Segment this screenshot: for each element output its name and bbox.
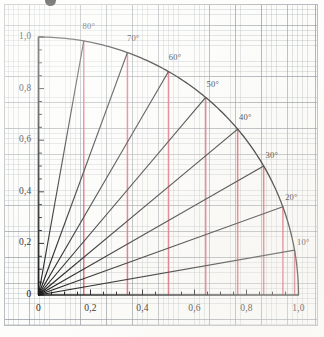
angle-label: 50° [207,80,220,89]
angle-label: 80° [83,22,96,31]
y-tick-label: 0,8 [19,84,31,94]
x-tick-label: 0,2 [84,304,96,314]
x-tick-label: 0,8 [240,304,252,314]
x-tick-label: 0 [36,304,41,314]
angle-label: 10° [297,238,310,247]
angle-label: 60° [169,53,182,62]
y-tick-label: 1,0 [19,32,31,42]
y-tick-label: 0,6 [19,135,31,145]
angle-label: 20° [285,193,298,202]
y-tick-label: 0,2 [19,238,31,248]
x-tick-label: 0,4 [136,304,148,314]
chart-plot [0,0,324,337]
scanned-page: 00,20,40,60,81,000,20,40,60,81,080°70°60… [0,0,324,337]
x-tick-label: 0,6 [188,304,200,314]
angle-label: 40° [239,113,252,122]
angle-label: 70° [127,34,140,43]
y-tick-label: 0 [27,290,32,300]
y-tick-label: 0,4 [19,187,31,197]
angle-label: 30° [266,151,279,160]
x-tick-label: 1,0 [292,304,304,314]
